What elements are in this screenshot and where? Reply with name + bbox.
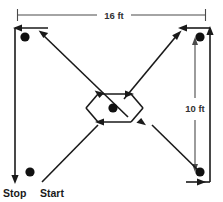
height-dimension-label: 10 ft [185, 103, 205, 114]
stop-label: Stop [3, 187, 26, 199]
path-arrow-left-down [11, 175, 18, 184]
path-arrow-top-right [178, 25, 187, 32]
path-segment-diagonal-up-right-upper [124, 34, 178, 99]
path-diagram-svg: 16 ft 10 ft [0, 0, 223, 202]
hexagon-arrow-lower-right [136, 118, 146, 125]
cone-top-left-dot [20, 32, 29, 41]
cone-center-dot [108, 103, 117, 112]
path-arrow-bottom-right [197, 179, 206, 186]
hexagon-edge-upper-right [131, 94, 143, 108]
endpoint-labels-group: Stop Start [3, 187, 64, 199]
start-label: Start [40, 187, 64, 199]
width-dimension-label: 16 ft [104, 10, 124, 21]
cone-markers-group [20, 32, 204, 176]
cone-bottom-left-dot [25, 167, 34, 176]
path-arrow-diagonal-up-left [39, 31, 49, 38]
height-dimension-group: 10 ft [185, 37, 205, 172]
hexagon-edge-lower-left [86, 108, 98, 122]
hexagon-edge-upper-left [86, 94, 98, 108]
path-segment-diagonal-up-right-lower [42, 125, 98, 182]
cone-top-right-dot [195, 32, 204, 41]
diagram-canvas: 16 ft 10 ft [0, 0, 223, 202]
path-segment-diagonal-lower-right [152, 125, 200, 172]
width-dimension-group: 16 ft [18, 9, 206, 21]
cone-bottom-right-dot [195, 167, 204, 176]
